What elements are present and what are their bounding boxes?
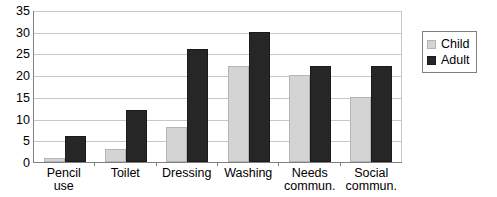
x-tick-label: Dressing <box>156 167 218 193</box>
legend-label: Adult <box>441 54 470 67</box>
bar-child <box>228 66 249 162</box>
bar-adult <box>249 32 270 162</box>
plot-area <box>33 11 402 163</box>
bar-group <box>218 11 279 162</box>
y-tick-label: 5 <box>0 135 30 147</box>
x-axis: Pencil useToiletDressingWashingNeeds com… <box>33 167 402 193</box>
bar-adult <box>187 49 208 162</box>
y-axis: 05101520253035 <box>0 0 30 163</box>
bar-child <box>350 97 371 162</box>
bar-child <box>166 127 187 162</box>
bar-chart: 05101520253035 Pencil useToiletDressingW… <box>0 0 497 197</box>
legend-item: Adult <box>427 52 470 68</box>
legend-item: Child <box>427 36 470 52</box>
bar-group <box>279 11 340 162</box>
legend-label: Child <box>441 38 470 51</box>
y-tick-label: 20 <box>0 70 30 82</box>
y-tick-label: 35 <box>0 5 30 17</box>
bar-child <box>105 149 126 162</box>
x-tick-label: Pencil use <box>33 167 95 193</box>
x-tick-label: Toilet <box>95 167 157 193</box>
bar-adult <box>371 66 392 162</box>
bar-group <box>341 11 402 162</box>
adult-swatch-icon <box>427 56 436 65</box>
bar-group <box>34 11 95 162</box>
y-tick-label: 0 <box>0 157 30 169</box>
child-swatch-icon <box>427 40 436 49</box>
bar-group <box>157 11 218 162</box>
y-tick-label: 10 <box>0 114 30 126</box>
bar-child <box>289 75 310 162</box>
y-tick-label: 15 <box>0 92 30 104</box>
x-tick-label: Washing <box>218 167 280 193</box>
x-tick-label: Social commun. <box>341 167 403 193</box>
bar-group <box>95 11 156 162</box>
x-tick-label: Needs commun. <box>279 167 341 193</box>
bar-adult <box>310 66 331 162</box>
bar-child <box>44 158 65 162</box>
bars-layer <box>34 11 402 162</box>
y-tick-label: 25 <box>0 48 30 60</box>
chart-legend: ChildAdult <box>422 31 477 73</box>
y-tick-label: 30 <box>0 27 30 39</box>
bar-adult <box>65 136 86 162</box>
bar-adult <box>126 110 147 162</box>
